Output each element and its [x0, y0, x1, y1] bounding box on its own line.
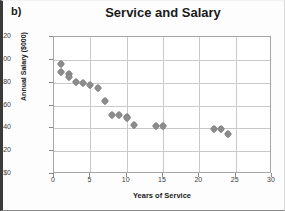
data-point	[94, 85, 101, 92]
data-point	[65, 73, 72, 80]
x-tick-label: 25	[231, 176, 239, 183]
x-axis-title: Years of Service	[53, 191, 271, 200]
y-gridline	[54, 151, 270, 152]
x-gridline	[163, 37, 164, 172]
data-point	[58, 61, 65, 68]
data-point	[225, 130, 232, 137]
y-tick-mark	[49, 82, 53, 83]
x-tick-label: 10	[122, 176, 130, 183]
x-gridline	[90, 37, 91, 172]
y-tick-mark	[49, 59, 53, 60]
plot-area	[53, 36, 271, 173]
y-axis-title: Annual Salary ($000)	[20, 11, 27, 123]
y-tick-mark	[49, 150, 53, 151]
y-gridline	[54, 106, 270, 107]
y-tick-mark	[49, 36, 53, 37]
data-point	[210, 126, 217, 133]
x-tick-label: 5	[87, 176, 91, 183]
x-tick-label: 30	[267, 176, 275, 183]
y-tick-mark	[49, 105, 53, 106]
x-tick-label: 20	[194, 176, 202, 183]
x-gridline	[127, 37, 128, 172]
data-point	[101, 97, 108, 104]
y-gridline	[54, 60, 270, 61]
chart-figure: b) Service and Salary Annual Salary ($00…	[0, 0, 285, 211]
data-point	[218, 126, 225, 133]
y-tick-mark	[49, 127, 53, 128]
data-point	[80, 79, 87, 86]
x-tick-label: 15	[158, 176, 166, 183]
x-gridline	[199, 37, 200, 172]
data-point	[72, 78, 79, 85]
x-tick-label: 0	[51, 176, 55, 183]
data-point	[116, 111, 123, 118]
x-gridline	[236, 37, 237, 172]
chart-title: Service and Salary	[63, 5, 263, 20]
data-point	[58, 69, 65, 76]
